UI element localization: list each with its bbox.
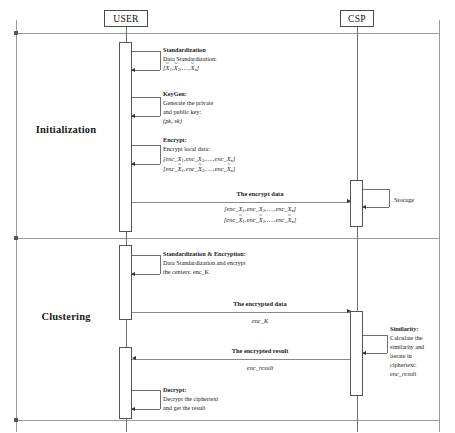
frame-right-border <box>439 20 440 432</box>
step-title-standardization: Standardization <box>163 46 206 54</box>
message-line-the-encrypted-data <box>132 312 350 313</box>
selfloop-decrypt <box>132 390 160 409</box>
separator-initialization-clustering <box>16 238 439 239</box>
message-line-the-encrypt-data <box>132 202 350 203</box>
step-line-decrypt-2: and get the result <box>163 404 205 412</box>
phase-label-clustering: Clustering <box>23 311 109 324</box>
selfloop-keygen <box>132 97 160 116</box>
csp-step-line-similarity-3: iterate in <box>390 352 412 360</box>
selfloop-standardization <box>132 51 160 70</box>
message-line-the-encrypted-result <box>132 359 350 360</box>
actor-label-csp: CSP <box>348 14 366 24</box>
message-label-the-encrypted-data: The encrypted data <box>170 300 350 308</box>
tick-bottom <box>14 418 18 422</box>
step-title-encrypt: Encrypt: <box>163 136 187 144</box>
frame-left-border <box>16 20 17 432</box>
phase-label-initialization: Initialization <box>23 124 109 137</box>
message-arrowhead-the-encrypt-data <box>347 199 351 203</box>
activation-csp-storage <box>350 180 363 227</box>
step-title-standardization-encryption: Standardization & Encryption: <box>163 250 246 258</box>
csp-step-title-storage: Storage <box>394 196 414 204</box>
step-line-standardization-encryption-1: Data Standardization and encrypt <box>163 259 246 267</box>
tick-middle <box>14 236 18 240</box>
step-line-standardization-1: Data Standardization: <box>163 55 217 63</box>
activation-user-clustering-send <box>119 245 132 320</box>
step-line-decrypt-1: Decrypt the ciphertext <box>163 395 218 403</box>
step-formula-encrypt-2: [enc_X1, enc_X2, . . . , enc_Xn] <box>163 165 235 173</box>
csp-step-line-similarity-1: Calculate the <box>390 334 422 342</box>
step-line-standardization-encryption-2: the centers: enc_K <box>163 268 209 276</box>
step-line-encrypt-1: Encrypt local data: <box>163 145 210 153</box>
message-payload-the-encrypted-result: enc_result <box>170 364 350 372</box>
sequence-diagram-canvas: USER CSP Initialization Clustering Stand… <box>0 0 455 433</box>
csp-step-formula-similarity: enc_result <box>390 370 416 378</box>
message-payload-the-encrypted-data: enc_K <box>170 317 350 325</box>
selfloop-encrypt <box>132 145 160 164</box>
actor-header-csp[interactable]: CSP <box>340 10 374 27</box>
message-label-the-encrypted-result: The encrypted result <box>170 347 350 355</box>
message-arrowhead-the-encrypted-data <box>347 309 351 313</box>
step-title-keygen: KeyGen: <box>163 90 187 98</box>
message-payload-the-encrypt-data-2: [enc_X1, enc_X2, . . . , enc_Xn] <box>170 216 350 224</box>
selfloop-storage <box>363 189 389 207</box>
actor-header-user[interactable]: USER <box>104 10 148 27</box>
message-arrowhead-the-encrypted-result <box>132 356 136 360</box>
message-label-the-encrypt-data: The encrypt data <box>170 190 350 198</box>
step-formula-standardization: [X1, X2, . . . , Xn] <box>163 64 199 72</box>
separator-top <box>16 33 439 34</box>
step-title-decrypt: Decrypt: <box>163 386 186 394</box>
selfloop-similarity <box>363 335 387 353</box>
step-line-keygen-1: Generate the private <box>163 99 213 107</box>
csp-step-title-similarity: Similarity: <box>390 325 419 333</box>
step-formula-keygen: (pk, sk) <box>163 117 182 125</box>
csp-step-line-similarity-4: ciphertext: <box>390 361 416 369</box>
selfloop-standardization-encryption <box>132 255 160 274</box>
step-line-keygen-2: and public key: <box>163 108 201 116</box>
separator-bottom <box>16 420 439 421</box>
tick-top <box>14 31 18 35</box>
csp-step-line-similarity-2: similarity and <box>390 343 424 351</box>
actor-label-user: USER <box>113 14 138 24</box>
